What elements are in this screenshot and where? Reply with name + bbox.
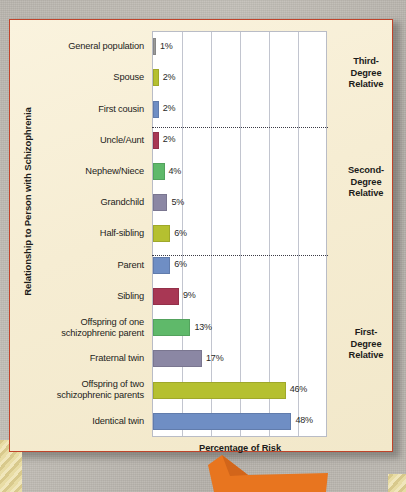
bar-value-label: 46% — [290, 384, 307, 394]
bar-value-label: 48% — [295, 415, 312, 425]
category-label: Fraternal twin — [4, 353, 144, 364]
category-label: Nephew/Niece — [4, 166, 144, 177]
category-label: Uncle/Aunt — [4, 135, 144, 146]
bar — [153, 257, 170, 274]
x-axis-title: Percentage of Risk — [152, 443, 328, 453]
bar-row: Uncle/Aunt2% — [0, 125, 406, 156]
category-label: Spouse — [4, 72, 144, 83]
bar — [153, 288, 179, 305]
bar-value-label: 6% — [174, 228, 187, 238]
bar-value-label: 9% — [183, 290, 196, 300]
category-label: Parent — [4, 260, 144, 271]
group-label-first-degree: First- Degree Relative — [336, 327, 396, 362]
bar — [153, 194, 167, 211]
group-label-second-degree: Second- Degree Relative — [336, 165, 396, 200]
bar — [153, 382, 286, 399]
bar-value-label: 4% — [169, 166, 182, 176]
bar-value-label: 1% — [160, 41, 173, 51]
category-label: Grandchild — [4, 197, 144, 208]
group-separator-third-second — [152, 127, 328, 128]
bar — [153, 350, 202, 367]
category-label: Offspring of oneschizophrenic parent — [4, 317, 144, 339]
category-label: First cousin — [4, 104, 144, 115]
bar-row: First cousin2% — [0, 93, 406, 124]
group-label-third-degree: Third- Degree Relative — [336, 56, 396, 91]
bar-row: Sibling9% — [0, 281, 406, 312]
bar — [153, 101, 159, 118]
bar-value-label: 2% — [163, 72, 176, 82]
bar-value-label: 13% — [194, 322, 211, 332]
category-label: Offspring of twoschizophrenic parents — [4, 379, 144, 401]
bar-rows: General population1%Spouse2%First cousin… — [0, 31, 406, 437]
bar-value-label: 2% — [163, 103, 176, 113]
bar-row: Identical twin48% — [0, 406, 406, 437]
bar — [153, 319, 190, 336]
bar-value-label: 2% — [163, 134, 176, 144]
bar-value-label: 5% — [171, 197, 184, 207]
bar-value-label: 17% — [206, 353, 223, 363]
bar — [153, 163, 165, 180]
bar — [153, 132, 159, 149]
bar — [153, 225, 170, 242]
category-label: Half-sibling — [4, 228, 144, 239]
group-separator-second-first — [152, 255, 328, 256]
bar-value-label: 6% — [174, 259, 187, 269]
bar — [153, 38, 156, 55]
bar — [153, 413, 291, 430]
category-label: Identical twin — [4, 416, 144, 427]
chart-region: Relationship to Person with Schizophreni… — [0, 0, 406, 492]
orange-pointer-arrow — [208, 455, 328, 492]
bar-row: Half-sibling6% — [0, 218, 406, 249]
category-label: General population — [4, 41, 144, 52]
category-label: Sibling — [4, 291, 144, 302]
bar-row: Offspring of twoschizophrenic parents46% — [0, 375, 406, 406]
bar — [153, 69, 159, 86]
